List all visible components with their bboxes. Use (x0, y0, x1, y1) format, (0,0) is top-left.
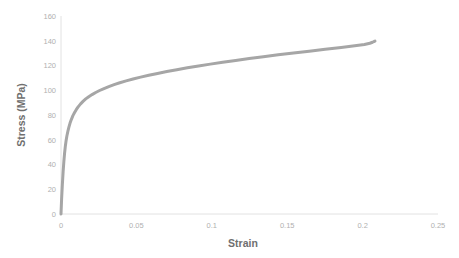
y-tick-label: 60 (48, 136, 56, 145)
x-tick-label: 0.1 (207, 221, 217, 230)
stress-strain-chart-figure: 020406080100120140160 00.050.10.150.20.2… (0, 0, 459, 258)
y-tick-label: 120 (43, 61, 56, 70)
chart-canvas: 020406080100120140160 00.050.10.150.20.2… (0, 0, 459, 258)
x-tick-label: 0 (59, 221, 63, 230)
x-tick-label: 0.15 (280, 221, 295, 230)
x-tick-label: 0.2 (357, 221, 367, 230)
x-tick-label: 0.05 (129, 221, 144, 230)
y-tick-label: 0 (52, 210, 56, 219)
y-tick-label: 100 (43, 86, 56, 95)
y-tick-label: 40 (48, 160, 56, 169)
y-tick-label: 20 (48, 185, 56, 194)
y-tick-label: 160 (43, 12, 56, 21)
x-axis-title: Strain (228, 237, 258, 249)
y-tick-label: 140 (43, 37, 56, 46)
x-tick-label: 0.25 (431, 221, 446, 230)
y-axis-title: Stress (MPa) (15, 83, 27, 147)
y-tick-label: 80 (48, 111, 56, 120)
